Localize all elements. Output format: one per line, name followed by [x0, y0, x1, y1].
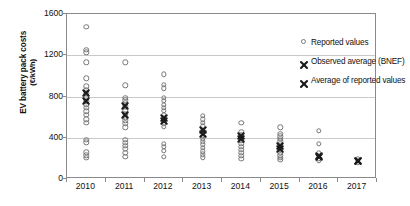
x-axis-tick [260, 178, 261, 182]
data-point [316, 141, 321, 146]
y-axis-tick-label: 800 [29, 92, 63, 101]
data-point [239, 156, 244, 161]
data-point [122, 82, 127, 87]
data-point [277, 157, 282, 162]
data-point [122, 60, 127, 65]
average-marker [82, 97, 91, 106]
data-point [84, 120, 89, 125]
x-axis-tick [376, 178, 377, 182]
data-point [277, 125, 282, 130]
x-axis-tick [182, 178, 183, 182]
x-axis-tick-label: 2015 [257, 182, 301, 191]
x-axis-tick [105, 178, 106, 182]
data-point [84, 155, 89, 160]
x-axis-tick [221, 178, 222, 182]
x-axis-tick-label: 2016 [296, 182, 340, 191]
data-point [122, 154, 127, 159]
data-point [84, 60, 89, 65]
average-marker [237, 135, 246, 144]
open-circle-icon [299, 37, 309, 47]
y-axis-title: EV battery pack costs (€/kWh) [19, 2, 38, 142]
data-point [161, 148, 166, 153]
x-axis-tick-label: 2013 [180, 182, 224, 191]
legend-label: Reported values [311, 37, 368, 46]
gridline [67, 138, 375, 139]
y-axis-tick-label: 400 [29, 133, 63, 142]
x-axis-tick-label: 2014 [218, 182, 262, 191]
data-point [200, 155, 205, 160]
data-point [122, 125, 127, 130]
gridline [67, 97, 375, 98]
data-point [161, 86, 166, 91]
legend-label: Observed average (BNEF) [311, 56, 404, 65]
average-marker [121, 111, 130, 120]
y-axis-tick-label: 1600 [29, 9, 63, 18]
legend-item-observed-average: Observed average (BNEF) [299, 51, 410, 70]
x-axis-tick [66, 178, 67, 182]
x-axis-tick-label: 2017 [335, 182, 379, 191]
x-marker-icon [299, 75, 309, 85]
x-axis-tick [337, 178, 338, 182]
average-marker [121, 102, 130, 111]
average-marker [159, 117, 168, 126]
x-marker-icon [299, 56, 309, 66]
chart-legend: Reported values Observed average (BNEF) … [299, 32, 410, 89]
data-point [84, 76, 89, 81]
average-marker [198, 129, 207, 138]
x-axis-tick-label: 2010 [63, 182, 107, 191]
data-point [316, 128, 321, 133]
data-point [84, 49, 89, 54]
y-axis-title-units: (€/kWh) [28, 2, 37, 142]
y-axis-tick-label: 1200 [29, 50, 63, 59]
average-marker [314, 152, 323, 161]
legend-item-reported-values: Reported values [299, 32, 410, 51]
data-point [84, 140, 89, 145]
x-axis-tick [144, 178, 145, 182]
average-marker [353, 156, 362, 165]
data-point [161, 72, 166, 77]
x-axis-tick-label: 2012 [141, 182, 185, 191]
average-marker [276, 144, 285, 153]
x-axis-tick-label: 2011 [102, 182, 146, 191]
x-axis-tick [299, 178, 300, 182]
y-axis-tick-label: 0 [29, 174, 63, 183]
legend-item-average-reported: Average of reported values [299, 70, 410, 89]
data-point [239, 120, 244, 125]
plot-area: Reported values Observed average (BNEF) … [66, 13, 376, 178]
data-point [161, 154, 166, 159]
data-point [84, 24, 89, 29]
legend-label: Average of reported values [311, 75, 405, 84]
